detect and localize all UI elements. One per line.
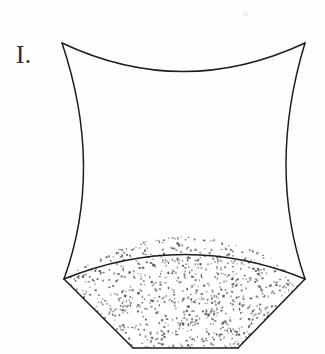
- granular-base-fill: [40, 225, 320, 354]
- figure-label: I.: [16, 42, 32, 67]
- figure-container: I.: [0, 0, 325, 354]
- right-side-curve: [286, 43, 305, 279]
- top-rim-curve: [62, 43, 305, 72]
- figure-diagram: [0, 0, 325, 354]
- left-side-curve: [62, 43, 84, 279]
